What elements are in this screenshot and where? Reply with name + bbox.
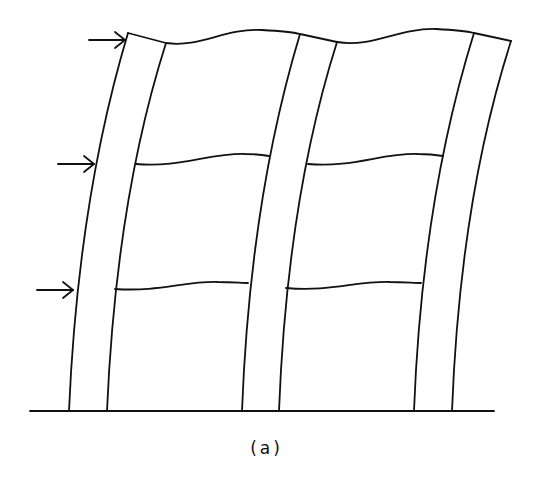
column-left-outer — [69, 33, 128, 411]
load-arrow-floor2-icon — [58, 156, 94, 172]
roof-beam-right-cap — [474, 33, 511, 41]
figure-caption: (a) — [0, 438, 533, 458]
frame-drawing — [0, 0, 533, 503]
deformed-frame-diagram: (a) — [0, 0, 533, 503]
column-right-outer — [414, 33, 474, 411]
roof-beam-left-cap — [128, 33, 166, 43]
load-arrow-roof-icon — [89, 32, 125, 48]
columns — [69, 33, 511, 411]
column-mid-outer — [242, 34, 300, 411]
column-right-inner — [452, 41, 511, 411]
column-mid-inner — [279, 42, 337, 411]
roof-beam-mid-cap — [300, 34, 337, 42]
beams — [115, 29, 511, 290]
floor2-beam-right-bay — [308, 154, 443, 165]
floor1-beam-left-bay — [115, 282, 248, 290]
load-arrow-floor1-icon — [37, 282, 73, 298]
roof-beam-right-bay — [337, 29, 474, 43]
column-left-inner — [107, 43, 166, 411]
floor1-beam-right-bay — [286, 282, 421, 289]
roof-beam-left-bay — [166, 30, 300, 44]
floor2-beam-left-bay — [136, 154, 269, 165]
